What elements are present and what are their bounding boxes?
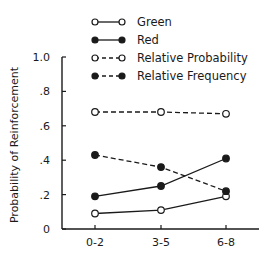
x-tick-label: 3-5 [152,236,170,249]
legend-label: Green [137,15,172,29]
data-point [223,111,230,118]
legend-item: Red [92,33,159,47]
data-point [92,109,99,116]
series-red [92,155,230,199]
data-point [92,193,99,200]
legend: GreenRedRelative ProbabilityRelative Fre… [92,15,248,83]
series-relative-probability [92,109,230,117]
series-green [92,193,230,217]
series-lines [92,109,230,217]
data-point [158,207,165,214]
legend-label: Red [137,33,159,47]
data-point [158,164,165,171]
legend-label: Relative Probability [137,51,248,65]
y-tick-label: .2 [40,189,51,202]
legend-item: Green [92,15,172,29]
data-point [92,152,99,159]
y-tick-label: 0 [43,223,50,236]
data-point [223,188,230,195]
x-tick-label: 0-2 [86,236,104,249]
legend-item: Relative Frequency [92,69,247,83]
data-point [158,183,165,190]
y-tick-label: .4 [40,154,51,167]
y-tick-label: .8 [40,85,51,98]
y-tick-label: 1.0 [33,51,51,64]
y-axis-label: Probability of Reinforcement [8,66,21,223]
data-point [158,109,165,116]
data-point [223,155,230,162]
line-chart: 0.2.4.6.81.00-23-56-8 GreenRedRelative P… [0,0,273,259]
legend-item: Relative Probability [92,51,248,65]
data-point [92,210,99,217]
legend-label: Relative Frequency [137,69,247,83]
y-tick-label: .6 [40,120,51,133]
x-tick-label: 6-8 [217,236,235,249]
